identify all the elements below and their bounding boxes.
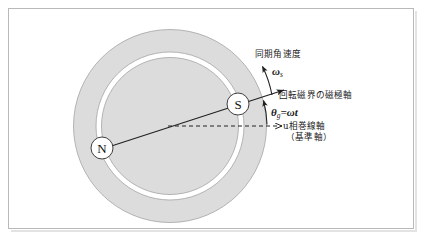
omega-s-subscript: s <box>280 70 283 79</box>
label-theta-equation: θg=ωt <box>271 107 298 120</box>
theta-equation-rest: =ωt <box>280 106 297 118</box>
omega-s-symbol: ω <box>272 65 280 77</box>
label-omega-s: ωs <box>272 66 283 79</box>
label-reference-axis: （基準軸） <box>286 133 332 142</box>
pole-n: N <box>91 137 113 159</box>
pole-s-label: S <box>234 97 241 112</box>
diagram-canvas: N S <box>0 0 427 247</box>
figure-root: N S 同期角速度 ωs 回転磁界の磁極軸 θg=ωt u相巻線軸 （基準軸） <box>0 0 427 247</box>
omega-s-arc-arrow <box>263 67 273 96</box>
label-u-phase-winding-axis: u相巻線軸 <box>283 122 326 131</box>
label-rotating-field-pole-axis: 回転磁界の磁極軸 <box>279 91 353 100</box>
pole-s: S <box>227 93 249 115</box>
label-sync-angular-velocity: 同期角速度 <box>255 50 301 59</box>
pole-n-label: N <box>97 141 107 156</box>
